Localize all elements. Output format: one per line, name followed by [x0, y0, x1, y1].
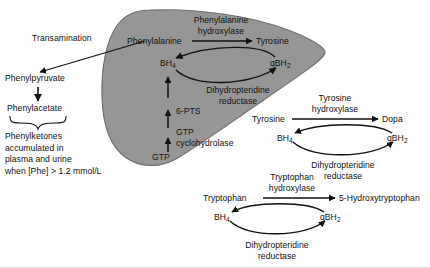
qbh2-label-cycle1: qBH2 — [270, 58, 291, 69]
phenylalanine-hydroxylase-line1: Phenylalanine — [194, 15, 249, 25]
curly-brace — [10, 116, 66, 129]
tryptophan-label: Tryptophan — [203, 193, 247, 203]
dopa-label: Dopa — [382, 114, 403, 124]
phenylpyruvate-label: Phenylpyruvate — [5, 73, 65, 83]
note-line-4: when [Phe] > 1.2 mmol/L — [5, 166, 101, 176]
tryptophan-hydroxylase-line2: hydroxylase — [269, 183, 315, 193]
dihydropteridine-reductase-line2-cycle2: reductase — [324, 171, 362, 181]
phenylacetate-label: Phenylacetate — [7, 103, 62, 113]
phenylketone-note: Phenylketones accumulated in plasma and … — [5, 131, 137, 177]
note-line-1: Phenylketones — [5, 131, 62, 141]
arc3-bh4-to-qbh2 — [230, 221, 325, 234]
note-line-2: accumulated in — [5, 143, 64, 153]
gtp-cyclohydrolase-line2: cyclohydrolase — [176, 138, 234, 148]
dihydropteridine-reductase-line1-cycle3: Dihydropteridine — [245, 240, 308, 250]
tyrosine-hydroxylase-line1: Tyrosine — [319, 93, 352, 103]
dihydropteridine-reductase-line2-cycle1: reductase — [219, 96, 257, 106]
dihydropteridine-reductase-line1-cycle2: Dihydropteridine — [311, 160, 374, 170]
bh4-label-cycle3: BH4 — [214, 212, 230, 223]
pathway-diagram: Transamination Phenylpyruvate Phenylacet… — [0, 0, 430, 268]
arc2-qbh2-to-bh4 — [295, 125, 392, 133]
six-pts-label: 6-PTS — [176, 106, 201, 116]
bh4-label-cycle2: BH4 — [277, 133, 293, 144]
transamination-label: Transamination — [32, 33, 92, 43]
arc3-qbh2-to-bh4 — [232, 204, 324, 212]
phenylalanine-hydroxylase-line2: hydroxylase — [198, 26, 244, 36]
arc2-bh4-to-qbh2 — [293, 142, 393, 155]
tyrosine-label-cycle1: Tyrosine — [256, 36, 289, 46]
qbh2-label-cycle3: qBH2 — [320, 212, 341, 223]
tryptophan-hydroxylase-line1: Tryptophan — [270, 172, 314, 182]
bh4-label-cycle1: BH4 — [160, 58, 176, 69]
dihydropteridine-reductase-line2-cycle3: reductase — [258, 251, 296, 261]
note-line-3: plasma and urine — [5, 154, 72, 164]
gtp-label: GTP — [152, 152, 170, 162]
tyrosine-label-cycle2: Tyrosine — [252, 114, 285, 124]
dihydropteridine-reductase-line1-cycle1: Dihydropteridine — [206, 85, 269, 95]
phenylalanine-label: Phenylalanine — [127, 36, 182, 46]
gtp-cyclohydrolase-line1: GTP — [176, 127, 194, 137]
tyrosine-hydroxylase-line2: hydroxylase — [312, 104, 358, 114]
qbh2-label-cycle2: qBH2 — [387, 133, 408, 144]
5-hydroxytryptophan-label: 5-Hydroxytryptophan — [339, 193, 420, 203]
